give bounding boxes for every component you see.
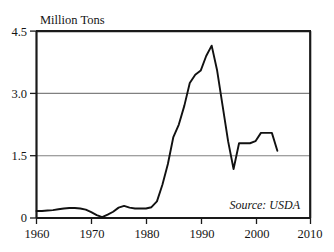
y-tick-label-3-0: 3.0 — [11, 87, 27, 101]
y-tick-label-1-5: 1.5 — [11, 149, 27, 163]
chart-background — [0, 0, 334, 252]
x-tick-label-2010: 2010 — [298, 227, 323, 241]
x-tick-label-1970: 1970 — [80, 227, 105, 241]
x-tick-label-1990: 1990 — [190, 227, 215, 241]
x-tick-label-1980: 1980 — [135, 227, 160, 241]
y-tick-label-0: 0 — [21, 211, 27, 225]
y-tick-label-4-5: 4.5 — [11, 25, 27, 39]
x-tick-label-2000: 2000 — [245, 227, 270, 241]
x-tick-label-1960: 1960 — [25, 227, 50, 241]
line-chart: Million Tons 4.5 3.0 1.5 0 1960 1970 198… — [0, 0, 334, 252]
chart-container: Million Tons 4.5 3.0 1.5 0 1960 1970 198… — [0, 0, 334, 252]
y-axis-label: Million Tons — [40, 13, 105, 27]
source-annotation: Source: USDA — [229, 198, 300, 212]
